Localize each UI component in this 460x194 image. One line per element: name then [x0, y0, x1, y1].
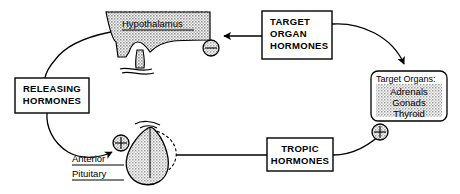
target-organ-hormones-label-line2: ORGAN	[270, 28, 307, 39]
diagram-canvas: Hypothalamus Anterior Pituitary RELEASIN…	[0, 0, 460, 194]
pituitary-figure: Anterior Pituitary	[72, 121, 176, 184]
box-releasing-hormones[interactable]: RELEASING HORMONES	[15, 78, 89, 113]
anterior-pituitary-label-line1: Anterior	[72, 153, 105, 164]
target-organs-item-thyroid: Thyroid	[393, 108, 425, 119]
arrow-curve	[332, 24, 404, 64]
minus-sign-icon	[203, 40, 219, 56]
tropic-hormones-label-line2: HORMONES	[271, 155, 329, 166]
box-tropic-hormones[interactable]: TROPIC HORMONES	[267, 138, 333, 171]
target-organs-item-adrenals: Adrenals	[390, 86, 428, 97]
target-organs-item-gonads: Gonads	[392, 97, 426, 108]
plus-sign-target-organs-icon	[372, 124, 388, 140]
hypothalamus-label: Hypothalamus	[122, 18, 183, 29]
box-target-organs[interactable]: Target Organs: Adrenals Gonads Thyroid	[371, 71, 447, 121]
target-organ-hormones-label-line3: HORMONES	[270, 40, 328, 51]
box-target-organ-hormones[interactable]: TARGET ORGAN HORMONES	[262, 11, 332, 59]
target-organs-title: Target Organs:	[376, 74, 436, 84]
anterior-pituitary-label-line2: Pituitary	[72, 168, 107, 179]
target-organ-hormones-label-line1: TARGET	[270, 16, 310, 27]
arrow-releasing-hormones-to-pituitary	[47, 113, 112, 157]
feedback-loop-diagram: Hypothalamus Anterior Pituitary RELEASIN…	[0, 0, 460, 194]
arrow-target-organs-to-target-organ-hormones	[332, 24, 404, 64]
pituitary-stalk-top	[135, 121, 160, 125]
arrow-curve	[47, 113, 112, 157]
pituitary-stalk	[136, 50, 145, 68]
releasing-hormones-label-line2: HORMONES	[23, 95, 81, 106]
plus-sign-pituitary-icon	[113, 135, 129, 151]
releasing-hormones-label-line1: RELEASING	[23, 83, 81, 94]
tropic-hormones-label-line1: TROPIC	[281, 143, 319, 154]
optic-chiasm-line-lower	[122, 72, 154, 74]
hypothalamus-figure: Hypothalamus	[106, 12, 210, 74]
